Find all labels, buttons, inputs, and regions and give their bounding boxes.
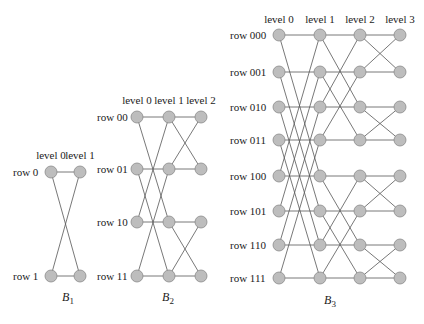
node [354, 29, 366, 41]
row-label: row 01 [97, 163, 128, 175]
network-caption: B2 [162, 290, 174, 306]
node [394, 29, 406, 41]
node [394, 239, 406, 251]
node [354, 101, 366, 113]
edges [279, 35, 400, 278]
node [273, 239, 285, 251]
node [354, 239, 366, 251]
level-label: level 1 [65, 149, 95, 161]
level-label: level 1 [305, 13, 335, 25]
nodes [131, 111, 207, 282]
node [131, 270, 143, 282]
edges [137, 117, 201, 276]
node [314, 29, 326, 41]
level-label: level 1 [154, 94, 184, 106]
node [195, 163, 207, 175]
node [131, 111, 143, 123]
edges [51, 172, 80, 276]
row-label: row 1 [13, 270, 38, 282]
level-label: level 2 [186, 94, 216, 106]
node [273, 134, 285, 146]
row-label: row 10 [97, 216, 128, 228]
node [131, 216, 143, 228]
node [74, 166, 86, 178]
level-label: level 0 [264, 13, 294, 25]
row-label: row 11 [97, 270, 127, 282]
node [394, 134, 406, 146]
node [131, 163, 143, 175]
node [273, 66, 285, 78]
node [163, 111, 175, 123]
node [273, 101, 285, 113]
row-label: row 110 [230, 239, 266, 251]
row-label: row 111 [230, 272, 266, 284]
node [354, 66, 366, 78]
node [314, 239, 326, 251]
row-label: row 011 [230, 134, 266, 146]
node [394, 101, 406, 113]
row-label: row 101 [230, 205, 266, 217]
network-caption: B3 [324, 293, 336, 309]
node [354, 134, 366, 146]
row-label: row 100 [230, 170, 267, 182]
network-caption: B1 [62, 290, 74, 306]
node [273, 170, 285, 182]
node [273, 29, 285, 41]
level-label: level 2 [345, 13, 375, 25]
node [273, 205, 285, 217]
node [394, 272, 406, 284]
node [394, 205, 406, 217]
row-label: row 0 [13, 166, 39, 178]
network-b1: level 0level 1row 0row 1B1 [13, 149, 95, 306]
node [354, 272, 366, 284]
node [195, 270, 207, 282]
node [354, 205, 366, 217]
level-label: level 3 [385, 13, 415, 25]
level-label: level 0 [36, 149, 66, 161]
row-label: row 010 [230, 101, 267, 113]
node [163, 163, 175, 175]
node [45, 270, 57, 282]
node [354, 170, 366, 182]
row-label: row 001 [230, 66, 266, 78]
node [394, 170, 406, 182]
network-b3: level 0level 1level 2level 3row 000row 0… [230, 13, 415, 309]
node [314, 101, 326, 113]
node [74, 270, 86, 282]
butterfly-networks-diagram: level 0level 1row 0row 1B1level 0level 1… [0, 0, 424, 324]
node [195, 111, 207, 123]
node [314, 170, 326, 182]
node [394, 66, 406, 78]
level-label: level 0 [122, 94, 152, 106]
node [314, 134, 326, 146]
row-label: row 00 [97, 111, 128, 123]
row-label: row 000 [230, 29, 267, 41]
node [314, 66, 326, 78]
node [314, 205, 326, 217]
node [163, 216, 175, 228]
network-b2: level 0level 1level 2row 00row 01row 10r… [97, 94, 216, 306]
node [45, 166, 57, 178]
node [314, 272, 326, 284]
node [163, 270, 175, 282]
node [273, 272, 285, 284]
node [195, 216, 207, 228]
